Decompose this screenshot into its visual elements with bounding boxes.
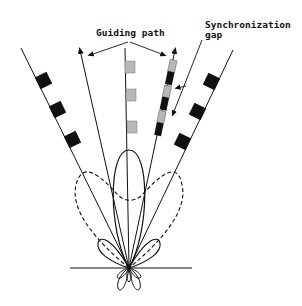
light-block — [162, 85, 171, 98]
light-block — [127, 121, 137, 133]
dark-block — [49, 101, 66, 118]
center-beam-line — [125, 48, 137, 268]
antenna-pattern-diagram: Guiding path Synchronization gap — [0, 0, 302, 306]
left-outer-block-path — [21, 48, 129, 268]
guiding-path-pointers — [90, 42, 164, 55]
dark-block — [174, 133, 191, 150]
sync-gap-leader — [173, 40, 202, 114]
dark-block — [160, 97, 170, 111]
light-block — [126, 89, 136, 101]
dark-block — [189, 103, 206, 120]
diagram-canvas — [0, 0, 302, 306]
dark-block — [35, 72, 52, 89]
guiding-path-label: Guiding path — [96, 28, 165, 38]
dark-block — [154, 122, 164, 136]
light-block — [168, 59, 177, 72]
dark-block — [203, 73, 220, 90]
right-guiding-track — [129, 50, 177, 268]
light-block — [157, 110, 166, 123]
sync-gap-label-line2: gap — [205, 30, 222, 40]
dark-block — [165, 71, 175, 85]
right-outer-block-path — [129, 50, 233, 268]
back-lobes — [117, 268, 141, 290]
dark-block — [64, 131, 81, 148]
light-block — [125, 61, 135, 73]
left-guiding-arrow — [80, 50, 129, 268]
